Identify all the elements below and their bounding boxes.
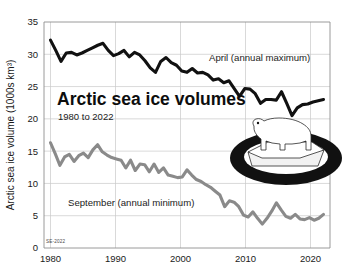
chart-subtitle: 1980 to 2022 — [58, 111, 113, 122]
chart-container: 05101520253035 19801990200020102020 Arct… — [0, 0, 353, 280]
y-tick-label: 15 — [27, 146, 38, 157]
x-tick-label: 1980 — [40, 253, 61, 264]
y-tick-label: 30 — [27, 49, 38, 60]
y-tick-label: 20 — [27, 113, 38, 124]
x-tick-label: 2020 — [300, 253, 321, 264]
x-tick-label: 2000 — [170, 253, 191, 264]
arctic-sea-ice-chart: 05101520253035 19801990200020102020 Arct… — [0, 0, 353, 280]
y-tick-label: 0 — [33, 242, 38, 253]
y-tick-label: 10 — [27, 178, 38, 189]
chart-credit: SE-2022 — [46, 239, 66, 244]
x-tick-label: 1990 — [105, 253, 126, 264]
x-tick-label: 2010 — [235, 253, 256, 264]
chart-title: Arctic sea ice volumes — [57, 89, 246, 109]
y-tick-label: 5 — [33, 210, 38, 221]
annotation-september: September (annual minimum) — [68, 197, 194, 208]
y-axis-title: Arctic sea ice volume (1000s km³) — [5, 60, 16, 211]
y-tick-label: 35 — [27, 16, 38, 27]
y-tick-label: 25 — [27, 81, 38, 92]
annotation-april: April (annual maximum) — [209, 52, 310, 63]
bear-eye — [257, 122, 259, 124]
